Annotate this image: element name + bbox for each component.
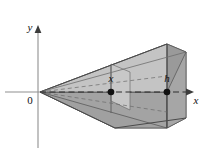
origin-label: 0 — [27, 94, 33, 106]
cross-section-point-label: x — [108, 72, 114, 84]
cross-section-point-dot — [108, 89, 115, 96]
y-axis-label: y — [27, 21, 33, 33]
height-point-label: h — [164, 72, 170, 84]
y-axis-arrowhead — [35, 25, 42, 33]
height-point-dot — [164, 89, 171, 96]
solid-cross-section-figure: 0 y x x h — [0, 0, 204, 159]
x-axis-label: x — [193, 94, 199, 106]
figure-container: 0 y x x h — [0, 0, 204, 159]
